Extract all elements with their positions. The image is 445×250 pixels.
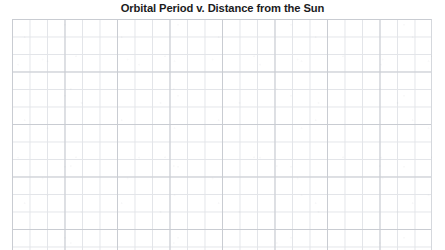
plot-area[interactable] [12,19,432,250]
page-title: Orbital Period v. Distance from the Sun [0,1,445,15]
grid-major-lines [12,19,432,250]
chart-page: Orbital Period v. Distance from the Sun [0,0,445,250]
